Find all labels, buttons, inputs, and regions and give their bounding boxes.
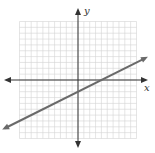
x-axis-left-arrow-icon	[4, 77, 11, 83]
y-axis-top-arrow-icon	[75, 8, 81, 15]
coordinate-plane: y x	[0, 0, 155, 153]
x-axis-label: x	[144, 82, 150, 93]
y-axis-bottom-arrow-icon	[75, 141, 81, 148]
y-axis-label: y	[83, 5, 90, 16]
